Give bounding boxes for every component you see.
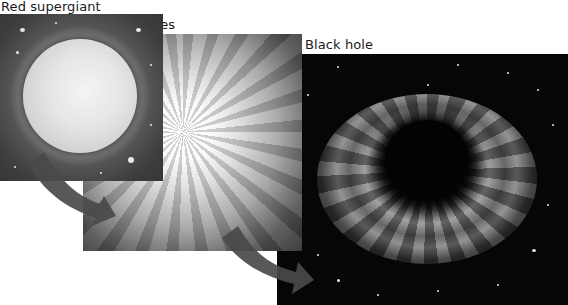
stage-label-red-supergiant: Red supergiant xyxy=(1,0,101,14)
stage-label-black-hole: Black hole xyxy=(305,38,373,52)
red-supergiant-image xyxy=(0,14,163,181)
supergiant-star xyxy=(23,39,137,153)
event-horizon xyxy=(385,120,469,200)
black-hole-image xyxy=(277,54,568,305)
